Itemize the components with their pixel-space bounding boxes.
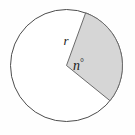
circle-sector-diagram: r n° — [0, 0, 135, 135]
degree-symbol-icon: ° — [80, 57, 84, 68]
figure-root: r n° — [0, 0, 135, 135]
angle-label-variable: n — [73, 58, 80, 73]
